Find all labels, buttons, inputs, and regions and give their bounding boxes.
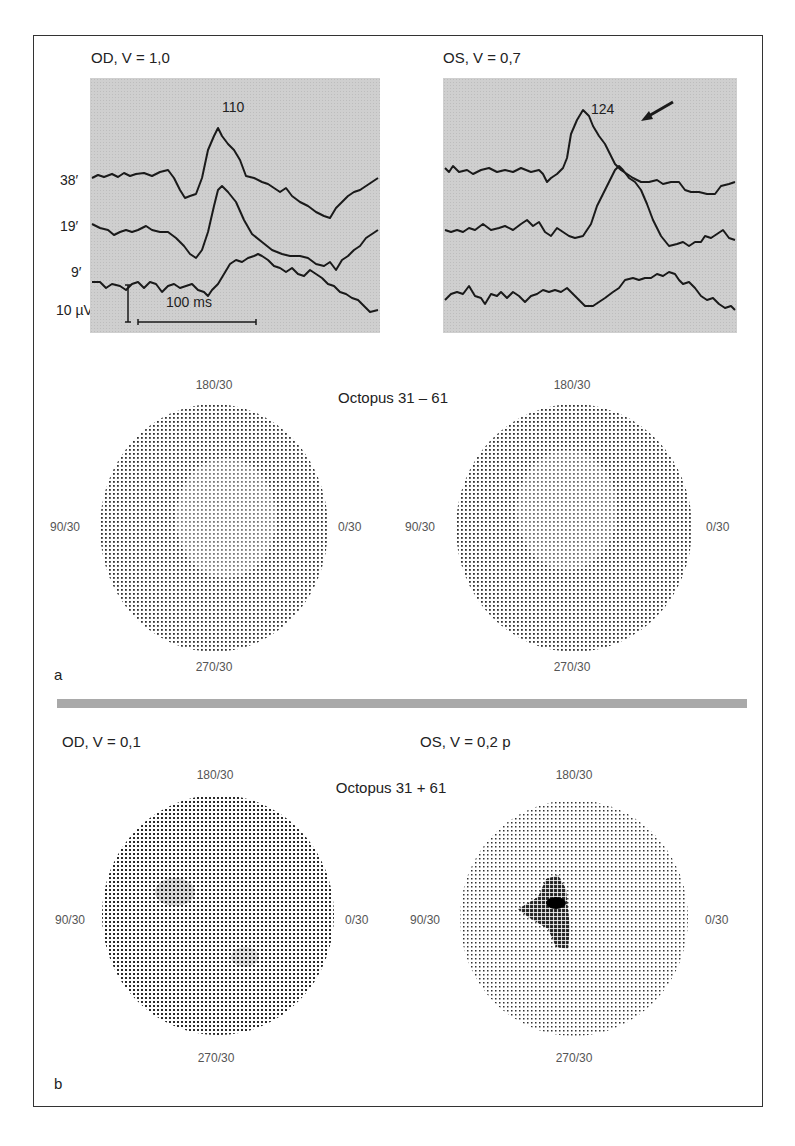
arrow-icon — [641, 102, 673, 121]
visual-field-plot — [458, 797, 694, 1039]
visual-field-plot — [100, 792, 336, 1038]
axis-label-top: 180/30 — [197, 768, 234, 782]
axis-label-top: 180/30 — [554, 378, 591, 392]
axis-label-right: 0/30 — [706, 520, 729, 534]
panel-label-a: a — [54, 666, 62, 683]
section-separator — [57, 699, 747, 708]
axis-label-bottom: 270/30 — [554, 660, 591, 674]
vep-panel-left: 110 100 ms — [90, 78, 380, 333]
perimetry-title-a: Octopus 31 – 61 — [338, 389, 448, 406]
panel-label-b: b — [54, 1075, 62, 1092]
axis-label-bottom: 270/30 — [196, 660, 233, 674]
perimetry-title-b: Octopus 31 + 61 — [336, 779, 447, 796]
visual-field-plot — [96, 400, 332, 656]
perimetry-right-title-b: OS, V = 0,2 p — [420, 733, 510, 750]
perimetry-left-title-b: OD, V = 0,1 — [62, 733, 141, 750]
axis-label-right: 0/30 — [338, 520, 361, 534]
scale-voltage-label: 10 µV — [56, 302, 93, 318]
row-label-9: 9′ — [71, 264, 81, 280]
vep-panel-right: 124 — [443, 78, 737, 333]
vep-left-title: OD, V = 1,0 — [91, 49, 170, 66]
axis-label-left: 90/30 — [50, 520, 80, 534]
axis-label-left: 90/30 — [55, 913, 85, 927]
axis-label-left: 90/30 — [410, 913, 440, 927]
axis-label-top: 180/30 — [556, 768, 593, 782]
axis-label-left: 90/30 — [405, 520, 435, 534]
vep-traces-right — [443, 78, 737, 333]
vep-right-title: OS, V = 0,7 — [443, 49, 521, 66]
visual-field-plot — [452, 400, 696, 656]
axis-label-bottom: 270/30 — [556, 1051, 593, 1065]
axis-label-top: 180/30 — [196, 378, 233, 392]
peak-latency-left: 110 — [222, 99, 244, 115]
peak-latency-right: 124 — [591, 101, 614, 117]
axis-label-bottom: 270/30 — [198, 1051, 235, 1065]
vep-traces-left — [90, 78, 380, 333]
axis-label-right: 0/30 — [345, 913, 368, 927]
scale-time-label: 100 ms — [166, 294, 212, 310]
axis-label-right: 0/30 — [705, 913, 728, 927]
row-label-38: 38′ — [60, 172, 78, 188]
row-label-19: 19′ — [60, 218, 78, 234]
